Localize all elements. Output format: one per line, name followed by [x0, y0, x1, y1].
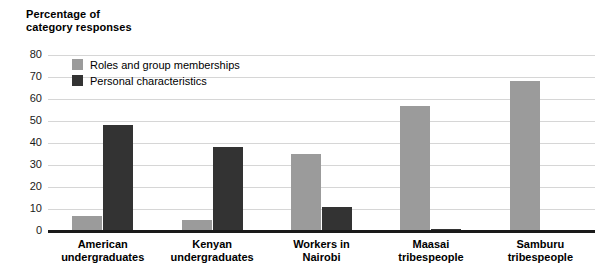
x-axis-label-line2: undergraduates	[157, 251, 266, 264]
legend-item-label: Roles and group memberships	[90, 59, 240, 71]
bar	[72, 216, 102, 231]
x-axis-label-line1: Workers in	[267, 238, 376, 251]
x-axis-label-line1: Kenyan	[157, 238, 266, 251]
y-axis-title-line2: category responses	[26, 21, 132, 34]
y-axis-title-line1: Percentage of	[26, 8, 132, 21]
x-axis-label-line2: tribespeople	[376, 251, 485, 264]
legend-swatch-icon	[72, 75, 83, 86]
y-axis-tick-label: 70	[18, 71, 42, 82]
legend: Roles and group memberships Personal cha…	[72, 57, 240, 89]
x-axis-label-line2: Nairobi	[267, 251, 376, 264]
x-axis-line	[48, 230, 595, 233]
bar	[103, 125, 133, 231]
x-axis-label: Kenyanundergraduates	[157, 238, 266, 264]
y-axis-tick-label: 20	[18, 181, 42, 192]
legend-item-label: Personal characteristics	[90, 75, 207, 87]
y-axis-tick-label: 0	[18, 225, 42, 236]
y-axis-tick-label: 10	[18, 203, 42, 214]
x-axis-label-line2: tribespeople	[486, 251, 595, 264]
y-axis-tick-label: 60	[18, 93, 42, 104]
x-axis-label-line1: Maasai	[376, 238, 485, 251]
legend-item: Personal characteristics	[72, 73, 240, 88]
bar	[400, 106, 430, 231]
bar-group	[486, 55, 595, 231]
bar	[213, 147, 243, 231]
x-axis-label-line1: Samburu	[486, 238, 595, 251]
x-axis-label: Samburutribespeople	[486, 238, 595, 264]
y-axis-tick-label: 40	[18, 137, 42, 148]
y-axis-tick-label: 30	[18, 159, 42, 170]
bar-chart: Percentage of category responses 8070605…	[0, 0, 603, 279]
legend-swatch-icon	[72, 59, 83, 70]
x-axis-label: Maasaitribespeople	[376, 238, 485, 264]
bar	[510, 81, 540, 231]
bar-group	[267, 55, 376, 231]
bar-group	[376, 55, 485, 231]
x-axis-label: Workers inNairobi	[267, 238, 376, 264]
y-axis-tick-label: 80	[18, 49, 42, 60]
bar	[322, 207, 352, 231]
x-axis-label-line2: undergraduates	[48, 251, 157, 264]
x-axis-label: Americanundergraduates	[48, 238, 157, 264]
bar	[291, 154, 321, 231]
y-axis-title: Percentage of category responses	[26, 8, 132, 34]
y-axis-tick-label: 50	[18, 115, 42, 126]
x-axis-label-line1: American	[48, 238, 157, 251]
legend-item: Roles and group memberships	[72, 57, 240, 72]
x-axis-labels: AmericanundergraduatesKenyanundergraduat…	[48, 238, 595, 264]
